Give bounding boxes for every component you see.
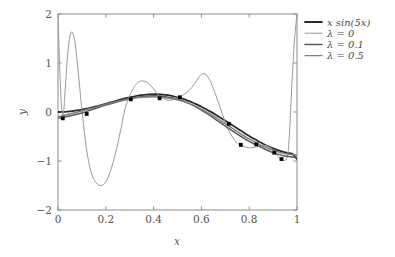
data-point-marker <box>129 97 133 101</box>
chart-root: 00.20.40.60.81 −2−1012 x y x sin(5x)λ = … <box>0 0 395 257</box>
y-axis-label: y <box>16 108 28 116</box>
y-tick-label: 0 <box>45 106 52 118</box>
chart-legend: x sin(5x)λ = 0λ = 0.1λ = 0.5 <box>305 17 370 62</box>
x-tick-label: 0.8 <box>241 213 258 225</box>
data-point-marker <box>61 116 65 120</box>
legend-label-3: λ = 0.5 <box>326 50 364 61</box>
data-point-marker <box>272 151 276 155</box>
y-tick-label: 1 <box>45 57 52 69</box>
data-point-marker <box>85 112 89 116</box>
x-tick-label: 0.6 <box>193 213 210 225</box>
data-point-marker <box>254 142 258 146</box>
data-point-marker <box>178 95 182 99</box>
x-axis-tick-labels: 00.20.40.60.81 <box>55 213 301 225</box>
y-tick-label: 2 <box>45 8 52 20</box>
plot-area-border <box>58 14 297 210</box>
data-point-marker <box>227 122 231 126</box>
legend-label-2: λ = 0.1 <box>326 39 364 50</box>
y-axis-tick-labels: −2−1012 <box>37 8 52 216</box>
data-point-marker <box>280 157 284 161</box>
x-tick-label: 1 <box>294 213 301 225</box>
regularization-line-chart: 00.20.40.60.81 −2−1012 x y x sin(5x)λ = … <box>0 0 395 257</box>
y-tick-label: −1 <box>37 155 52 167</box>
data-point-marker <box>239 143 243 147</box>
x-tick-label: 0.4 <box>145 213 162 225</box>
x-tick-label: 0.2 <box>97 213 114 225</box>
plot-frame <box>58 14 297 210</box>
y-tick-label: −2 <box>37 204 52 216</box>
x-axis-label: x <box>174 235 180 247</box>
data-point-marker <box>158 96 162 100</box>
legend-label-1: λ = 0 <box>326 28 355 39</box>
legend-label-0: x sin(5x) <box>327 17 370 28</box>
x-tick-label: 0 <box>55 213 62 225</box>
